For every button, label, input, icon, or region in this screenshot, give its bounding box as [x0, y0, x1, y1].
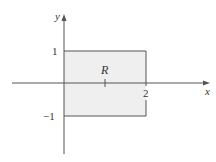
y-axis-label: y — [54, 10, 60, 22]
y-tick-label-1: 1 — [52, 45, 58, 57]
x-tick-label-2: 2 — [143, 87, 149, 99]
diagram: y x 1 −1 2 R — [0, 0, 216, 162]
x-axis-label: x — [204, 85, 210, 97]
y-axis-arrow-icon — [62, 14, 67, 21]
y-tick-label-minus-1: −1 — [43, 110, 55, 122]
region-label: R — [100, 63, 109, 77]
